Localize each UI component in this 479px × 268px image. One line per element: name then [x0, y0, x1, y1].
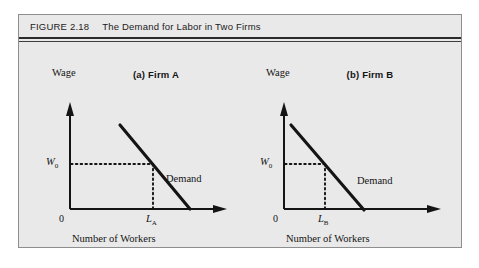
figure-header: FIGURE 2.18 The Demand for Labor in Two … — [19, 15, 461, 37]
x-axis-arrowhead-icon — [427, 205, 441, 213]
panel-b-wage-symbol: W — [260, 156, 269, 167]
y-axis-arrowhead-icon — [280, 102, 288, 116]
figure-number: FIGURE 2.18 — [30, 21, 89, 32]
panel-firm-a: (a) Firm A Wage W0 0 — [19, 43, 241, 247]
demand-curve-b — [291, 125, 364, 210]
panel-firm-b: (b) Firm B Wage W0 0 — [241, 43, 463, 247]
panel-a-y-axis-label: Wage — [52, 67, 76, 78]
panel-b-quantity-tick: LB — [318, 213, 329, 227]
figure-root: FIGURE 2.18 The Demand for Labor in Two … — [0, 0, 479, 268]
panel-b-wage-subscript: 0 — [269, 162, 273, 170]
panel-a-curve-label: Demand — [166, 173, 202, 184]
panel-b-quantity-subscript: B — [324, 219, 329, 227]
header-rule-thin — [19, 41, 461, 42]
panel-a-x-axis-label: Number of Workers — [72, 233, 156, 244]
panel-b-wage-value: W0 — [260, 156, 272, 170]
panel-a-origin-label: 0 — [59, 213, 64, 224]
figure-title: The Demand for Labor in Two Firms — [102, 21, 260, 32]
panels-container: (a) Firm A Wage W0 0 — [19, 43, 461, 247]
panel-a-wage-value: W0 — [46, 156, 58, 170]
panel-a-quantity-tick: LA — [146, 213, 157, 227]
x-axis-arrowhead-icon — [213, 205, 227, 213]
header-rule-thick — [19, 37, 461, 39]
panel-b-origin-label: 0 — [273, 213, 278, 224]
panel-a-quantity-subscript: A — [152, 219, 157, 227]
panel-b-y-axis-label: Wage — [266, 67, 290, 78]
panel-b-x-axis-label: Number of Workers — [286, 233, 370, 244]
panel-b-curve-label: Demand — [357, 175, 393, 186]
demand-curve-a — [120, 125, 190, 209]
figure-box: FIGURE 2.18 The Demand for Labor in Two … — [18, 14, 462, 248]
y-axis-arrowhead-icon — [66, 102, 74, 116]
panel-a-wage-subscript: 0 — [55, 162, 59, 170]
panel-a-wage-symbol: W — [46, 156, 55, 167]
